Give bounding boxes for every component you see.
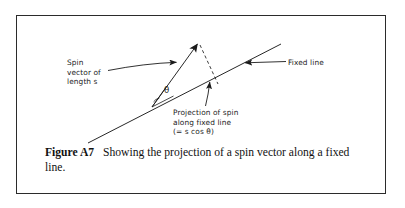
angle-theta-arc	[152, 87, 174, 108]
figure-drawing	[0, 0, 405, 208]
fixed-line-label: Fixed line	[288, 58, 324, 68]
figure-page: Spin vector of length s Fixed line Proje…	[0, 0, 405, 208]
figure-caption: Figure A7Showing the projection of a spi…	[45, 145, 363, 175]
figure-caption-label: Figure A7	[45, 146, 94, 159]
projection-dashed-line	[200, 45, 218, 84]
fixed-line-leader	[245, 62, 286, 63]
projection-label: Projection of spin along fixed line (= s…	[173, 108, 238, 137]
angle-theta-label: θ	[164, 85, 169, 95]
projection-leader	[206, 82, 210, 106]
spin-vector-leader	[108, 62, 177, 70]
spin-vector-label: Spin vector of length s	[67, 58, 101, 87]
